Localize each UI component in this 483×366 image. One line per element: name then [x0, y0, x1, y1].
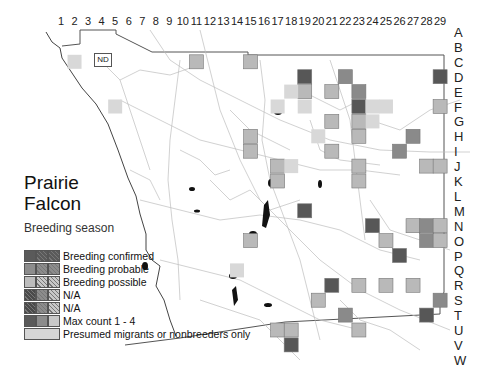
- column-label: 3: [85, 15, 91, 27]
- row-label: W: [454, 352, 466, 366]
- atlas-square-probable: [406, 129, 420, 143]
- atlas-square-probable: [352, 85, 366, 99]
- column-label: 25: [380, 15, 392, 27]
- map-legend: Breeding confirmedBreeding probableBreed…: [24, 249, 250, 340]
- column-label: 2: [71, 15, 77, 27]
- atlas-square-presumed: [379, 100, 393, 114]
- atlas-square-possible: [271, 159, 285, 173]
- legend-swatch: [24, 289, 36, 301]
- atlas-square-confirmed: [298, 70, 312, 84]
- atlas-square-confirmed: [325, 278, 339, 292]
- atlas-square-presumed: [271, 100, 285, 114]
- atlas-square-probable: [420, 219, 434, 233]
- atlas-square-possible: [244, 234, 258, 248]
- atlas-square-possible: [244, 144, 258, 158]
- row-label: L: [454, 188, 461, 203]
- column-label: 14: [231, 15, 243, 27]
- atlas-square-confirmed: [393, 249, 407, 263]
- atlas-square-possible: [420, 159, 434, 173]
- column-label: 8: [153, 15, 159, 27]
- atlas-square-possible: [433, 234, 447, 248]
- no-data-marker: ND: [94, 53, 112, 67]
- column-label: 5: [112, 15, 118, 27]
- legend-swatch: [48, 302, 60, 314]
- atlas-square-possible: [325, 114, 339, 128]
- atlas-square-possible: [298, 85, 312, 99]
- legend-item: Breeding probable: [24, 262, 250, 275]
- legend-swatch: [36, 289, 48, 301]
- legend-swatch: [36, 250, 48, 262]
- atlas-square-possible: [271, 323, 285, 337]
- atlas-square-possible: [352, 129, 366, 143]
- legend-label: Max count 1 - 4: [63, 315, 135, 327]
- legend-item: Max count 1 - 4: [24, 314, 250, 327]
- column-label: 15: [244, 15, 256, 27]
- legend-swatch: [48, 263, 60, 275]
- row-label: N: [454, 218, 463, 233]
- row-label: Q: [454, 263, 464, 278]
- column-label: 9: [166, 15, 172, 27]
- legend-swatch: [48, 289, 60, 301]
- atlas-square-possible: [271, 174, 285, 188]
- atlas-square-confirmed: [284, 338, 298, 352]
- atlas-square-possible: [352, 174, 366, 188]
- atlas-square-possible: [406, 219, 420, 233]
- atlas-square-possible: [189, 55, 203, 69]
- legend-item: Breeding confirmed: [24, 249, 250, 262]
- season-subtitle: Breeding season: [24, 221, 114, 235]
- column-label: 13: [217, 15, 229, 27]
- legend-swatch: [36, 276, 48, 288]
- column-label: 29: [434, 15, 446, 27]
- atlas-square-presumed: [311, 129, 325, 143]
- atlas-square-possible: [352, 278, 366, 292]
- atlas-square-probable: [433, 293, 447, 307]
- legend-swatch: [36, 302, 48, 314]
- row-label: I: [454, 144, 458, 159]
- legend-swatch: [24, 276, 36, 288]
- atlas-square-presumed: [284, 159, 298, 173]
- column-label: 17: [272, 15, 284, 27]
- atlas-square-possible: [244, 55, 258, 69]
- legend-item: Breeding possible: [24, 275, 250, 288]
- legend-swatch: [48, 315, 60, 327]
- atlas-square-possible: [352, 323, 366, 337]
- atlas-square-presumed: [284, 85, 298, 99]
- atlas-square-probable: [420, 234, 434, 248]
- legend-label: Breeding probable: [63, 263, 149, 275]
- legend-swatch: [48, 250, 60, 262]
- atlas-square-possible: [379, 278, 393, 292]
- row-label: M: [454, 203, 465, 218]
- column-label: 26: [393, 15, 405, 27]
- title-line-2: Falcon: [24, 193, 81, 214]
- legend-swatch: [36, 263, 48, 275]
- atlas-square-possible: [406, 278, 420, 292]
- atlas-square-presumed: [365, 114, 379, 128]
- column-label: 24: [366, 15, 378, 27]
- row-label: F: [454, 99, 462, 114]
- row-label: E: [454, 84, 463, 99]
- legend-label: N/A: [63, 289, 81, 301]
- row-label: H: [454, 129, 463, 144]
- atlas-square-confirmed: [365, 219, 379, 233]
- atlas-square-probable: [338, 308, 352, 322]
- legend-swatch: [24, 302, 36, 314]
- column-label: 4: [99, 15, 105, 27]
- row-label: G: [454, 114, 464, 129]
- row-label: C: [454, 54, 463, 69]
- legend-swatch: [36, 315, 48, 327]
- legend-label: Breeding possible: [63, 276, 146, 288]
- atlas-square-presumed: [365, 100, 379, 114]
- atlas-square-presumed: [68, 55, 82, 69]
- atlas-square-probable: [393, 144, 407, 158]
- row-label: D: [454, 69, 463, 84]
- legend-swatch: [24, 328, 60, 340]
- atlas-square-presumed: [108, 100, 122, 114]
- legend-item: N/A: [24, 288, 250, 301]
- atlas-square-possible: [433, 219, 447, 233]
- atlas-square-possible: [325, 85, 339, 99]
- atlas-square-possible: [325, 144, 339, 158]
- legend-label: N/A: [63, 302, 81, 314]
- atlas-square-possible: [284, 323, 298, 337]
- row-label: K: [454, 174, 463, 189]
- atlas-square-possible: [352, 159, 366, 173]
